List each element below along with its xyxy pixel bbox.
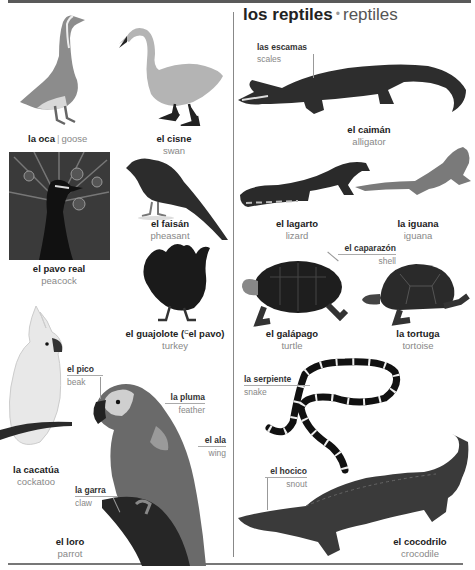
crocodile-label: el cocodrilo crocodile [390,536,450,560]
turkey-image [136,240,216,322]
annotation-beak: el pico beak [67,364,103,388]
annotation-snout: el hocico snout [265,466,307,490]
turtle-image [240,257,350,327]
annotation-wing: el ala wing [198,435,226,459]
parrot-label: el loro parrot [46,536,94,560]
annotation-claw: la garra claw [75,485,117,509]
annotation-snake: la serpiente snake [244,374,310,398]
cockatoo-label: la cacatúa cockatoo [3,464,69,488]
pheasant-label: el faisán pheasant [140,218,200,242]
snout-leader-line [267,478,268,510]
peacock-label: el pavo real peacock [23,263,95,287]
section-title: los reptiles•reptiles [243,5,398,25]
tortoise-label: la tortuga tortoise [390,328,446,352]
tortoise-image [360,258,470,328]
column-divider [233,12,234,557]
turkey-label: el guajolote (Cel pavo) turkey [118,326,232,352]
section-title-es: los reptiles [243,5,333,24]
goose-label: la oca|goose [28,133,87,145]
iguana-label: la iguana iguana [390,218,446,242]
lizard-label: el lagarto lizard [271,218,323,242]
annotation-scales: las escamas scales [257,42,313,65]
lizard-image [238,155,373,210]
goose-image [15,8,95,126]
bullet-separator: • [333,7,343,21]
bottom-rule [8,563,463,565]
swan-image [115,14,225,126]
top-rule [8,0,471,3]
beak-leader-line [100,377,101,399]
scales-leader-line [313,54,314,78]
annotation-feather: la pluma feather [165,392,205,416]
peacock-image [9,152,110,260]
turtle-label: el galápago turtle [262,328,322,352]
section-title-en: reptiles [343,5,398,24]
iguana-image [355,145,473,200]
alligator-image [238,58,470,128]
